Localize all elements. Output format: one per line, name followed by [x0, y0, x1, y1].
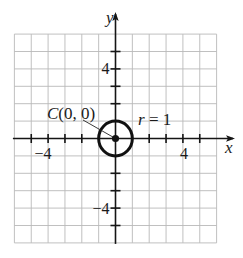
- y-tick-label: 4: [102, 60, 110, 77]
- center-point-name: C: [47, 104, 59, 123]
- center-coordinates: (0, 0): [58, 104, 95, 123]
- circle-graph: −444−4 y x C(0, 0) r = 1: [0, 0, 243, 258]
- y-tick-label: −4: [92, 200, 109, 217]
- center-point: [112, 135, 119, 142]
- radius-annotation: r = 1: [138, 110, 171, 129]
- x-tick-label: −4: [35, 145, 52, 162]
- radius-value: = 1: [145, 110, 172, 129]
- axes: [13, 12, 235, 244]
- center-annotation: C(0, 0): [47, 104, 95, 123]
- x-tick-label: 4: [180, 145, 188, 162]
- y-axis-label: y: [104, 8, 114, 27]
- x-axis-label: x: [224, 138, 233, 157]
